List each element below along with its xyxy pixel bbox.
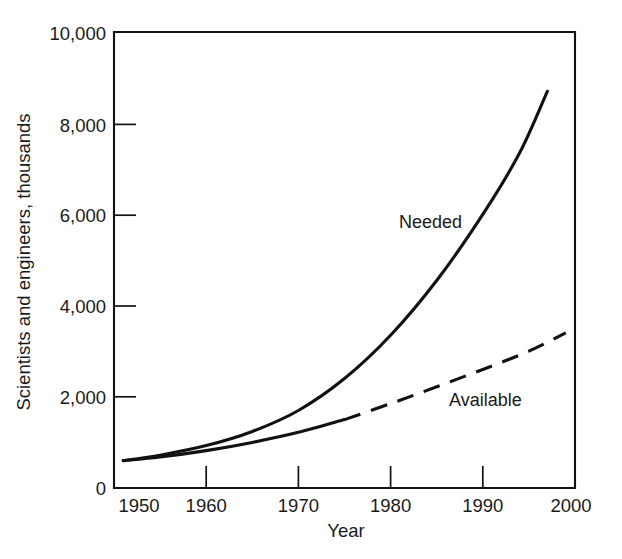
x-tick-label-1970: 1970 <box>278 495 319 516</box>
x-tick-label-1980: 1980 <box>370 495 411 516</box>
series-annotation-needed: Needed <box>399 212 462 232</box>
x-axis-title: Year <box>327 520 364 541</box>
y-tick-label-8000: 8,000 <box>60 115 106 136</box>
y-tick-label-6000: 6,000 <box>60 205 106 226</box>
y-tick-label-0: 0 <box>96 478 106 499</box>
y-axis-ticks <box>114 124 136 396</box>
x-tick-label-1960: 1960 <box>186 495 227 516</box>
chart-canvas: 10,000 8,000 6,000 4,000 2,000 0 1950 19… <box>0 0 622 559</box>
y-tick-label-2000: 2,000 <box>60 387 106 408</box>
x-axis-tick-labels: 1950 1960 1970 1980 1990 2000 <box>118 495 591 516</box>
y-tick-label-4000: 4,000 <box>60 296 106 317</box>
y-tick-label-10000: 10,000 <box>49 23 106 44</box>
x-tick-label-1950: 1950 <box>118 495 159 516</box>
x-tick-label-2000: 2000 <box>550 495 591 516</box>
y-axis-tick-labels: 10,000 8,000 6,000 4,000 2,000 0 <box>49 23 106 499</box>
x-tick-label-1990: 1990 <box>462 495 503 516</box>
series-annotation-available: Available <box>449 390 522 410</box>
y-axis-title: Scientists and engineers, thousands <box>13 113 34 410</box>
chart-figure: 10,000 8,000 6,000 4,000 2,000 0 1950 19… <box>0 0 622 559</box>
x-axis-ticks <box>206 466 483 488</box>
